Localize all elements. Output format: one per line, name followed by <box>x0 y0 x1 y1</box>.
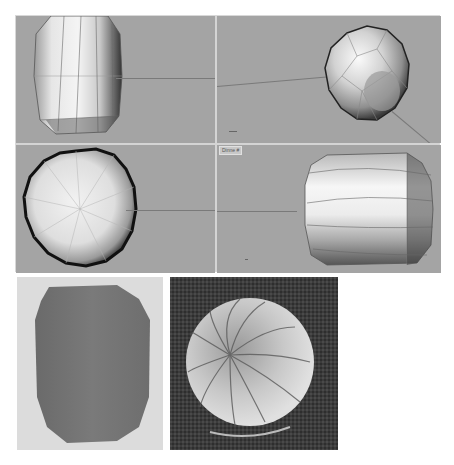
axis-gizmo <box>245 259 248 260</box>
viewport-perspective[interactable] <box>217 16 441 143</box>
viewport-top[interactable] <box>16 145 215 273</box>
x-axis-line <box>116 78 215 79</box>
axis-gizmo <box>229 131 237 132</box>
ribbed-egg-micrograph <box>170 277 338 450</box>
shaded-render-panel <box>17 277 163 450</box>
barrel-upright-model <box>16 16 215 143</box>
viewport-grid: Dinne # <box>15 15 440 272</box>
shaded-barrel-silhouette <box>17 277 163 450</box>
sem-micrograph-panel <box>170 277 338 450</box>
polygon-disc-model <box>16 145 215 273</box>
viewport-divider-horizontal[interactable] <box>16 143 439 145</box>
x-axis-line <box>126 210 215 211</box>
viewport-right[interactable]: Dinne # <box>217 145 441 273</box>
viewport-front[interactable] <box>16 16 215 143</box>
faceted-sphere-model <box>217 16 441 143</box>
barrel-sideways-model <box>217 145 441 273</box>
